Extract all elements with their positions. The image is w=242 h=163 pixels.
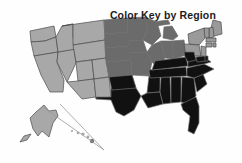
us-region-map	[0, 0, 242, 163]
state-rhode-island[interactable]	[213, 43, 216, 47]
state-arizona[interactable]	[67, 79, 96, 99]
state-alaska[interactable]	[30, 105, 58, 137]
state-delaware[interactable]	[205, 56, 208, 61]
state-new-hampshire[interactable]	[209, 27, 214, 38]
region-northeast[interactable]	[184, 20, 222, 57]
state-utah[interactable]	[76, 60, 94, 81]
state-arkansas[interactable]	[147, 76, 160, 93]
state-connecticut[interactable]	[206, 43, 212, 47]
state-massachusetts[interactable]	[206, 38, 216, 42]
state-south-dakota[interactable]	[105, 32, 129, 48]
state-mississippi[interactable]	[160, 77, 171, 104]
inset-line-alaska	[60, 104, 104, 150]
state-iowa[interactable]	[128, 40, 147, 53]
state-alabama[interactable]	[171, 77, 181, 103]
page-title: Color Key by Region	[110, 9, 216, 21]
map-figure: Color Key by Region	[0, 0, 242, 163]
state-florida[interactable]	[181, 97, 199, 134]
inset-line-hawaii	[44, 108, 104, 150]
region-west[interactable]	[20, 20, 111, 143]
state-new-mexico[interactable]	[94, 77, 111, 99]
state-nebraska[interactable]	[105, 46, 131, 62]
state-new-york[interactable]	[188, 28, 205, 45]
state-kansas[interactable]	[106, 60, 132, 77]
state-hawaii-island-1[interactable]	[71, 130, 73, 132]
state-ohio[interactable]	[172, 40, 186, 59]
state-oklahoma[interactable]	[109, 75, 136, 90]
state-michigan-lower[interactable]	[163, 26, 178, 40]
state-louisiana[interactable]	[141, 92, 163, 108]
state-alaska-aleutians[interactable]	[20, 134, 31, 142]
state-new-jersey[interactable]	[201, 46, 206, 57]
state-maryland[interactable]	[196, 56, 206, 62]
